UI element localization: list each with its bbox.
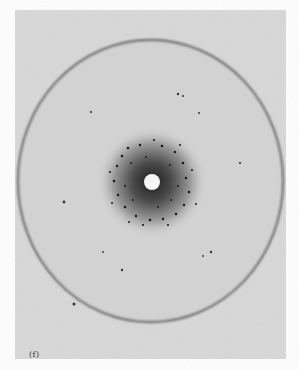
diffraction-image [0,0,299,370]
panel-label: (f) [29,350,40,359]
diffraction-figure: (f) [0,0,299,370]
beam-stop [144,174,160,190]
